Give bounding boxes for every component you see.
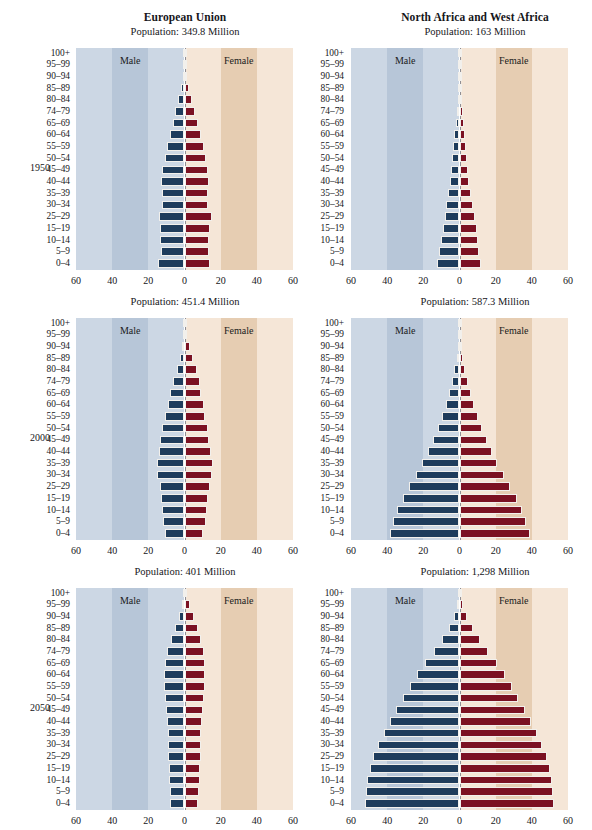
age-group-label: 45–49	[321, 434, 344, 444]
bar-male	[170, 799, 184, 808]
bar-female	[460, 729, 537, 738]
age-group-label: 15–19	[321, 763, 344, 773]
bar-male	[417, 670, 460, 679]
bar-male	[175, 107, 184, 116]
bar-rows	[351, 318, 592, 540]
bar-female	[460, 764, 550, 773]
age-group-label: 65–69	[47, 118, 70, 128]
x-tick-label: 0	[457, 815, 462, 826]
plot-area: MaleFemale	[351, 48, 592, 270]
pyramid-panel-1950-eu: Population: 349.8 Million1950MaleFemale1…	[0, 26, 310, 294]
pyramid-panel-2000-africa: Population: 587.3 MillionMaleFemale100+9…	[330, 296, 592, 564]
bar-row	[76, 635, 293, 645]
bar-row	[76, 611, 293, 621]
population-axis: 6040200204060	[76, 275, 293, 289]
x-tick-label: 0	[182, 275, 187, 286]
bar-row	[76, 728, 293, 738]
x-tick-label: 40	[252, 275, 262, 286]
bar-male	[165, 412, 184, 421]
bar-row	[351, 600, 592, 610]
bar-row	[76, 376, 293, 386]
bar-row	[76, 752, 293, 762]
bar-female	[185, 436, 210, 445]
bar-female	[460, 682, 512, 691]
bar-male	[165, 529, 185, 538]
population-axis: 6040200204060	[76, 815, 293, 829]
column-title-european-union: European Union	[75, 11, 295, 23]
x-tick-label: 40	[382, 275, 392, 286]
age-group-label: 90–94	[321, 341, 344, 351]
age-group-label: 5–9	[330, 786, 344, 796]
bar-female	[185, 659, 206, 668]
bar-rows	[351, 48, 592, 270]
age-group-label: 0–4	[330, 798, 344, 808]
x-tick-label: 60	[288, 275, 298, 286]
age-group-label: 80–84	[47, 634, 70, 644]
bar-male	[164, 670, 185, 679]
bar-row	[76, 705, 293, 715]
bar-male	[433, 436, 459, 445]
bar-female	[185, 342, 190, 351]
bar-female	[460, 142, 466, 151]
bar-male	[442, 635, 459, 644]
x-tick-label: 0	[457, 275, 462, 286]
x-tick-label: 40	[527, 815, 537, 826]
age-group-label: 90–94	[47, 341, 70, 351]
bar-row	[351, 258, 592, 268]
bar-male	[403, 494, 460, 503]
age-group-label: 50–54	[47, 423, 70, 433]
age-group-label: 55–59	[47, 411, 70, 421]
bar-male	[365, 799, 459, 808]
bar-female	[460, 95, 462, 104]
x-tick-label: 60	[346, 545, 356, 556]
age-group-label: 100+	[325, 48, 344, 58]
x-tick-label: 20	[216, 545, 226, 556]
age-group-axis: 100+95–9990–9485–8980–8474–7965–6960–645…	[294, 588, 346, 810]
age-group-label: 25–29	[321, 751, 344, 761]
age-group-label: 100+	[51, 48, 70, 58]
age-group-label: 90–94	[321, 71, 344, 81]
bar-rows	[351, 588, 592, 810]
bar-row	[351, 482, 592, 492]
bar-row	[351, 153, 592, 163]
bar-female	[185, 482, 210, 491]
bar-female	[460, 659, 497, 668]
bar-row	[76, 188, 293, 198]
bar-female	[460, 212, 475, 221]
bar-row	[351, 95, 592, 105]
age-group-label: 85–89	[321, 623, 344, 633]
bar-female	[460, 517, 526, 526]
bar-male	[446, 201, 459, 210]
bar-row	[351, 235, 592, 245]
bar-female	[185, 95, 193, 104]
age-group-label: 95–99	[47, 599, 70, 609]
bar-female	[185, 494, 209, 503]
bar-male	[439, 247, 459, 256]
bar-row	[351, 141, 592, 151]
bar-female	[460, 166, 469, 175]
age-group-label: 100+	[325, 588, 344, 598]
bar-male	[177, 365, 185, 374]
age-group-label: 0–4	[56, 798, 70, 808]
bar-female	[185, 72, 188, 81]
bar-female	[185, 154, 207, 163]
bar-male	[159, 212, 184, 221]
bar-male	[160, 482, 185, 491]
bar-row	[351, 517, 592, 527]
bar-female	[185, 84, 190, 93]
x-tick-label: 60	[563, 815, 573, 826]
x-tick-label: 60	[563, 545, 573, 556]
bar-row	[351, 447, 592, 457]
bar-female	[460, 389, 471, 398]
population-axis: 6040200204060	[351, 545, 592, 559]
bar-row	[351, 528, 592, 538]
bar-row	[76, 681, 293, 691]
bar-row	[351, 330, 592, 340]
bar-female	[185, 389, 202, 398]
age-group-label: 35–39	[47, 458, 70, 468]
x-tick-label: 20	[491, 815, 501, 826]
bar-female	[460, 647, 489, 656]
bar-female	[185, 142, 204, 151]
age-group-label: 0–4	[330, 258, 344, 268]
age-group-label: 65–69	[321, 388, 344, 398]
